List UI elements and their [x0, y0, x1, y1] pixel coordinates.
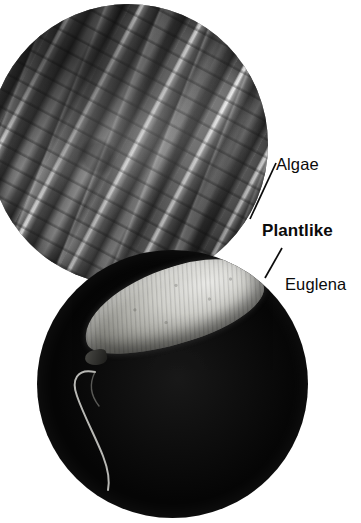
label-algae: Algae: [276, 156, 319, 173]
label-euglena: Euglena: [285, 276, 346, 293]
euglena-photo-circle: [37, 250, 308, 518]
algae-vignette: [0, 4, 268, 285]
algae-photo-circle: [0, 4, 268, 285]
protist-figure: Algae Plantlike Euglena: [0, 0, 361, 523]
label-plantlike: Plantlike: [262, 222, 333, 239]
